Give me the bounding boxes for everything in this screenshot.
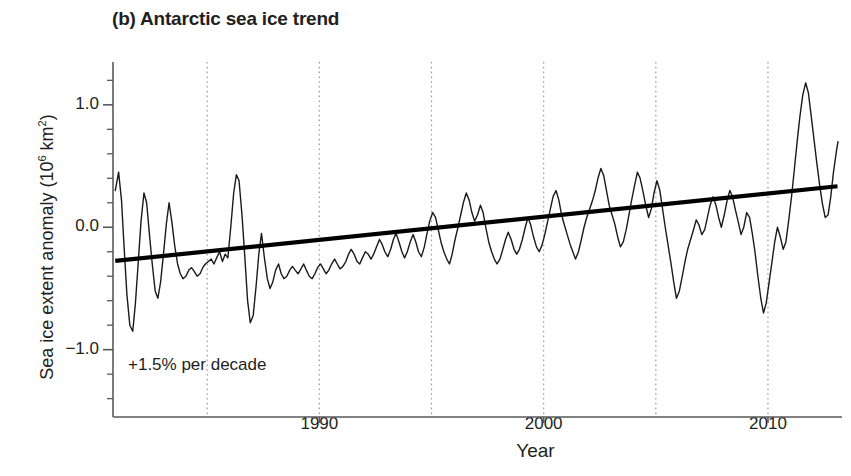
chart-figure: (b) Antarctic sea ice trend Sea ice exte… [0,0,851,476]
plot-area [0,0,851,476]
data-line [115,83,838,332]
trend-line [115,186,837,261]
